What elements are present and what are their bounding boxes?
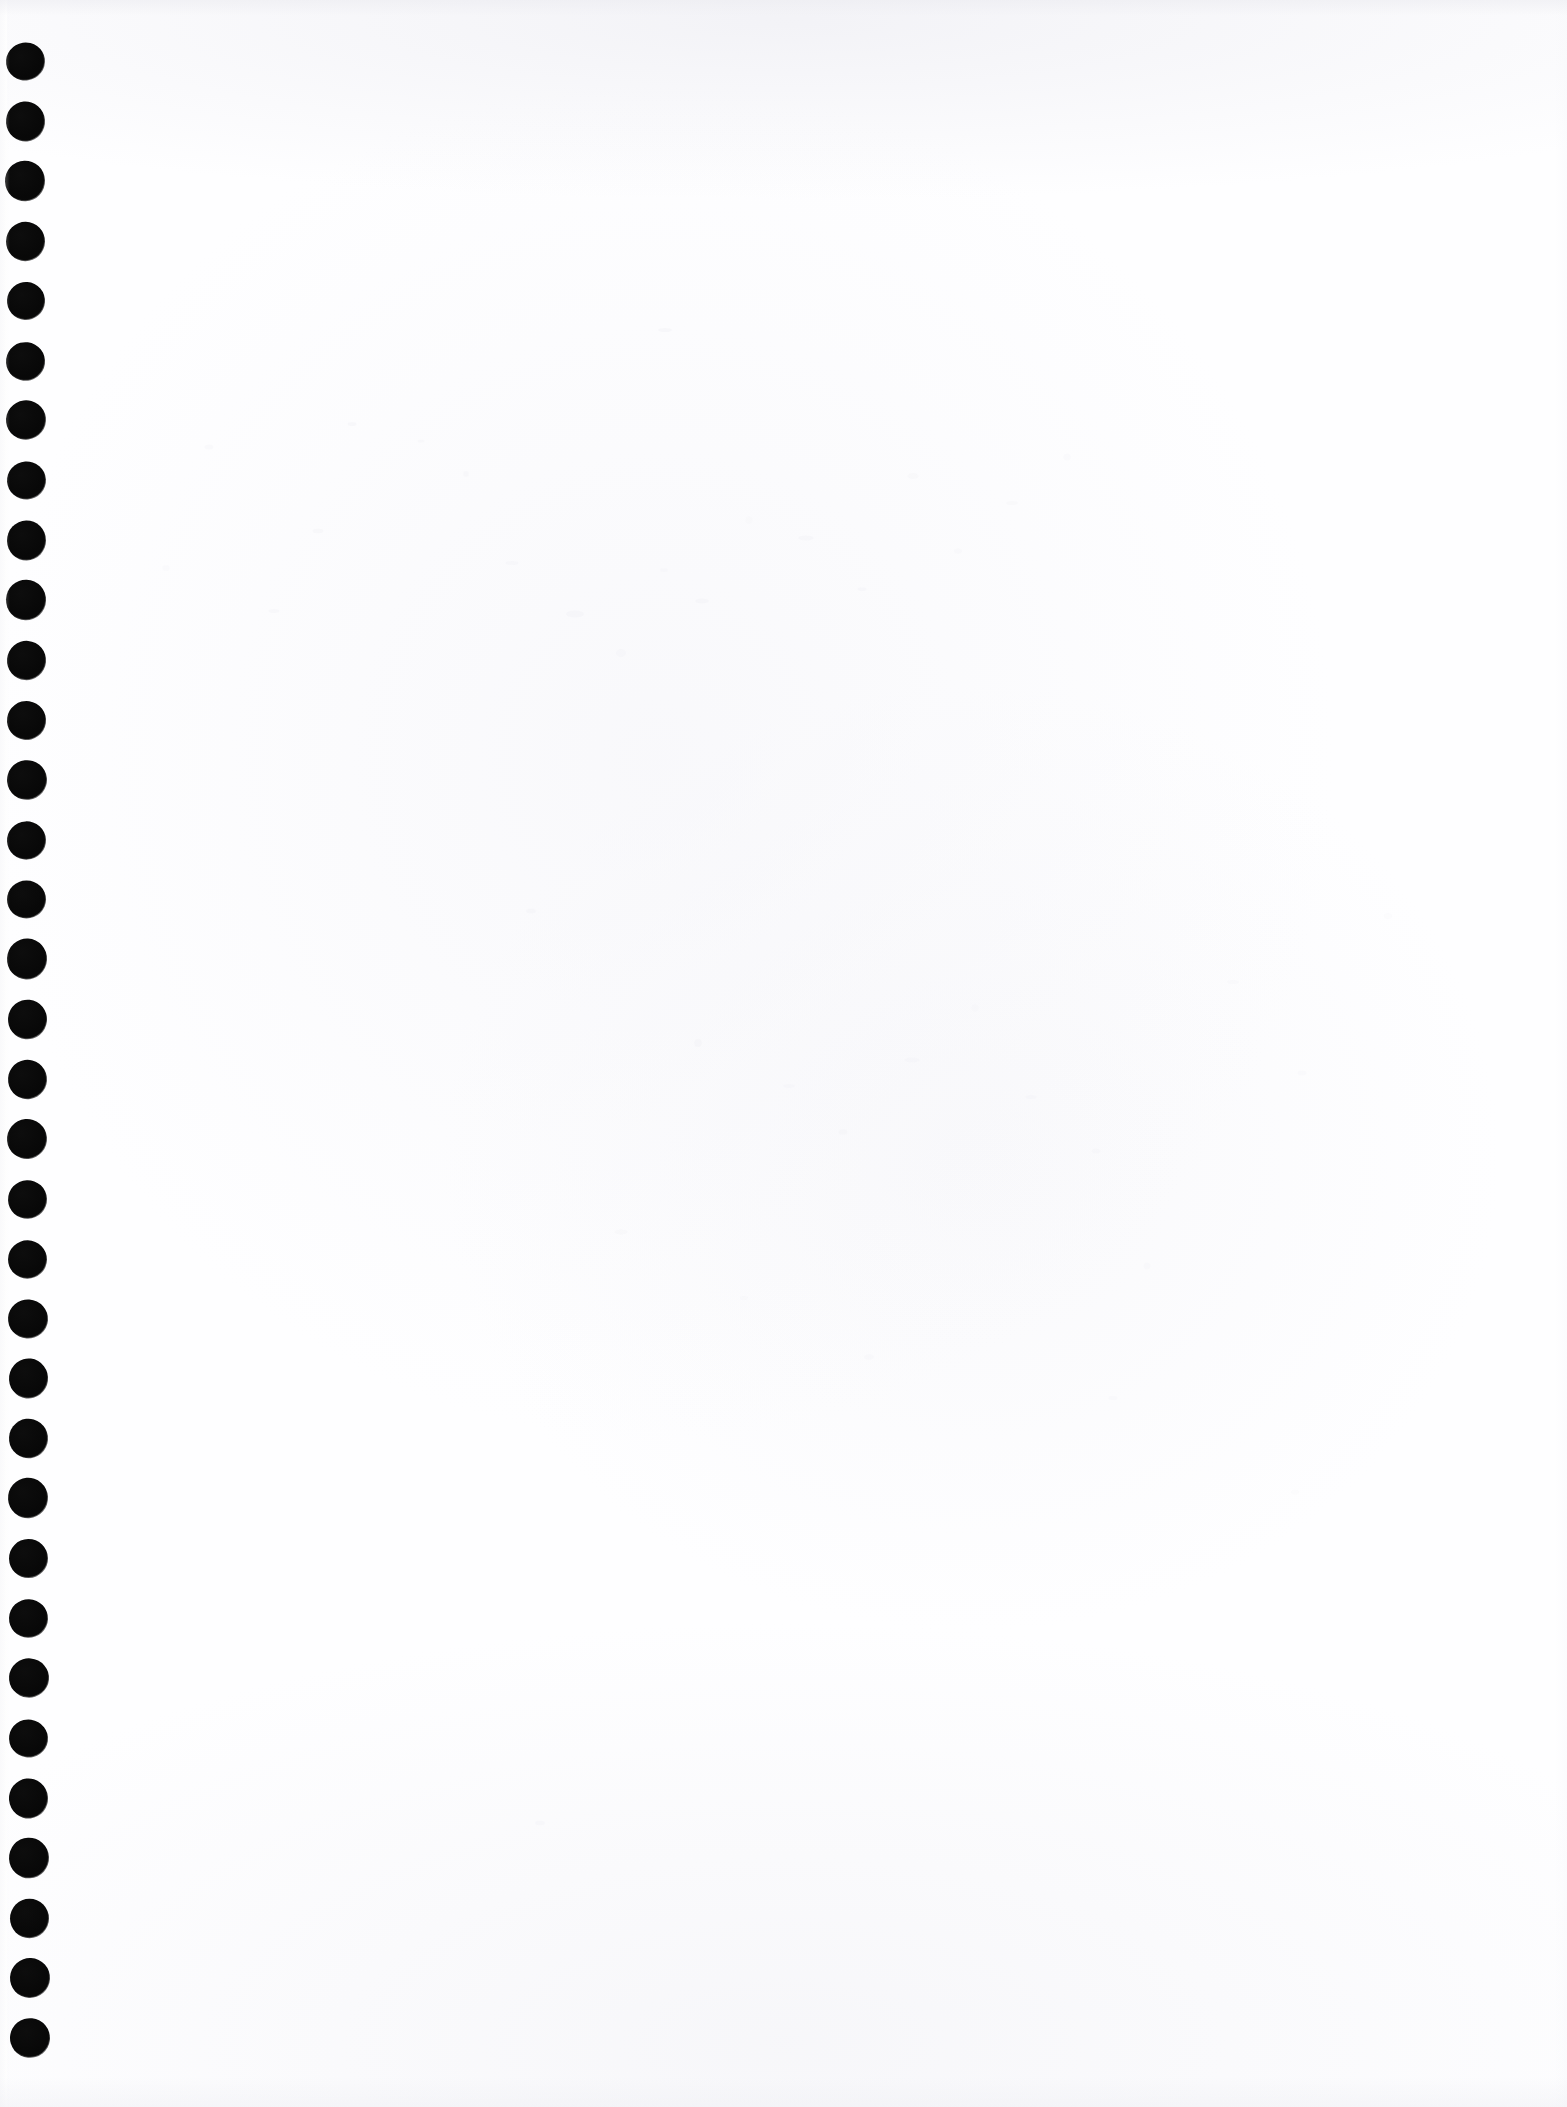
punch-hole [6, 161, 45, 201]
page-content-area [90, 40, 1520, 2060]
punch-hole [7, 1417, 48, 1459]
punch-hole [9, 1599, 47, 1637]
punch-hole [8, 1478, 49, 1519]
punch-hole [8, 1180, 46, 1218]
punch-hole [8, 881, 45, 917]
punch-hole [5, 341, 46, 382]
punch-hole [9, 2017, 51, 2058]
punch-hole [6, 282, 44, 320]
punch-hole [8, 1299, 48, 1339]
punch-hole [8, 1718, 50, 1759]
spiral-punch-hole-column [0, 0, 90, 2107]
punch-hole [6, 699, 48, 741]
punch-hole [7, 1118, 48, 1159]
punch-hole [9, 1838, 49, 1879]
punch-hole [6, 461, 45, 499]
punch-hole [11, 1899, 48, 1936]
punch-hole [5, 399, 47, 441]
punch-hole [4, 41, 46, 82]
punch-hole [9, 1241, 47, 1278]
punch-hole [7, 1357, 48, 1399]
punch-hole [7, 521, 45, 560]
punch-hole [6, 640, 46, 680]
punch-hole [9, 1777, 50, 1819]
punch-hole [6, 759, 48, 800]
punch-hole [7, 222, 45, 260]
punch-hole [7, 939, 47, 980]
punch-hole [7, 998, 48, 1039]
punch-hole [7, 821, 46, 859]
punch-hole [6, 1058, 48, 1100]
punch-hole [7, 580, 46, 620]
punch-hole [8, 1658, 49, 1698]
punch-hole [10, 1539, 48, 1577]
punch-hole [5, 100, 45, 141]
punch-hole [10, 1958, 50, 1998]
scanned-page [0, 0, 1567, 2107]
